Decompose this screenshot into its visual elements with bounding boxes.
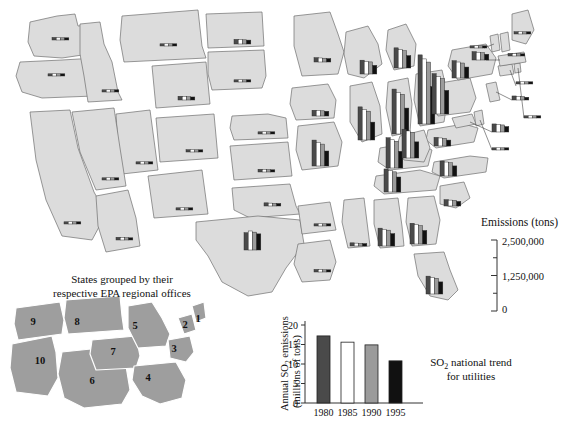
state-bars-wyoming xyxy=(178,96,195,100)
epa-region-shape-9 xyxy=(14,302,64,340)
trend-bar-1985 xyxy=(341,342,354,403)
state-bar-1990 xyxy=(242,80,246,82)
state-bar-1980 xyxy=(492,124,496,132)
state-bar-1990 xyxy=(410,132,414,158)
state-bar-1990 xyxy=(124,238,128,240)
state-bar-1985 xyxy=(120,238,124,240)
state-polygon-kansas xyxy=(230,142,292,180)
state-bar-1980 xyxy=(312,110,316,116)
state-bar-1985 xyxy=(456,62,460,78)
state-bars-minnesota xyxy=(314,58,331,62)
state-bar-1980 xyxy=(386,138,390,168)
state-bar-1985 xyxy=(398,50,402,68)
state-polygon-montana xyxy=(120,10,206,62)
state-bar-1980 xyxy=(116,237,120,240)
state-bar-1990 xyxy=(368,62,372,74)
state-polygon-mississippi xyxy=(342,198,370,248)
state-bar-1995 xyxy=(537,116,541,118)
state-bar-1995 xyxy=(327,59,331,62)
state-bar-1990 xyxy=(186,97,190,100)
state-bar-1985 xyxy=(516,96,520,100)
state-bar-1995 xyxy=(529,82,533,84)
state-polygon-new-hampshire xyxy=(500,32,510,52)
state-bar-1995 xyxy=(65,38,69,40)
state-bar-1995 xyxy=(397,177,401,192)
state-bar-1985 xyxy=(448,200,452,206)
state-bar-1985 xyxy=(382,229,386,246)
state-bar-1995 xyxy=(445,90,449,114)
trend-ylabel-line2: (millions of tons) xyxy=(291,335,302,408)
emissions-legend-axis xyxy=(491,240,497,311)
trend-xtick-label-1985: 1985 xyxy=(338,407,358,418)
state-bar-1980 xyxy=(514,32,518,34)
state-bar-1980 xyxy=(392,89,396,134)
state-bar-1985 xyxy=(140,162,144,164)
state-bars-nebraska xyxy=(258,132,275,134)
state-bar-1990 xyxy=(110,178,114,180)
state-bars-iowa xyxy=(312,110,329,116)
state-bar-1990 xyxy=(266,170,270,172)
state-bar-1995 xyxy=(373,65,377,74)
state-bar-1995 xyxy=(271,170,275,172)
state-bar-1985 xyxy=(182,97,186,100)
state-bar-1980 xyxy=(264,203,268,206)
epa-region-shape-10 xyxy=(10,336,58,396)
state-bar-1980 xyxy=(426,276,430,294)
state-polygon-colorado xyxy=(156,114,218,162)
state-bar-1980 xyxy=(350,243,354,246)
state-bar-1985 xyxy=(68,222,72,224)
state-bars-texas xyxy=(244,231,261,250)
state-bars-north-dakota xyxy=(234,39,251,44)
state-bar-1990 xyxy=(242,40,246,44)
state-bar-1995 xyxy=(521,54,525,56)
state-bar-1990 xyxy=(460,63,464,78)
state-bar-1980 xyxy=(440,161,444,176)
state-bar-1995 xyxy=(173,44,177,46)
trend-bar-1990 xyxy=(365,345,378,403)
state-polygon-vermont xyxy=(490,34,500,52)
state-bar-1990 xyxy=(366,111,370,140)
state-bars-new-jersey xyxy=(512,96,529,100)
state-polygon-nebraska xyxy=(230,114,288,140)
state-bar-1995 xyxy=(199,150,203,152)
epa-region-label-5: 5 xyxy=(132,320,137,331)
state-bars-connecticut xyxy=(516,82,533,84)
epa-region-label-9: 9 xyxy=(30,316,35,327)
leader-line-4 xyxy=(518,68,524,118)
state-bar-1985 xyxy=(444,162,448,176)
state-bar-1995 xyxy=(149,162,153,164)
state-bars-kansas xyxy=(258,169,275,172)
state-bar-1990 xyxy=(110,90,114,92)
state-bars-new-mexico xyxy=(176,208,193,210)
state-bar-1980 xyxy=(524,116,528,118)
state-bar-1985 xyxy=(528,116,532,118)
state-bar-1995 xyxy=(277,203,281,206)
state-bar-1985 xyxy=(518,32,522,34)
state-polygon-oklahoma xyxy=(232,184,300,218)
epa-region-label-6: 6 xyxy=(89,375,94,386)
state-bar-1980 xyxy=(410,223,414,244)
state-bar-1985 xyxy=(318,270,322,272)
state-bar-1995 xyxy=(505,148,509,150)
state-bar-1990 xyxy=(252,232,256,250)
state-bar-1985 xyxy=(436,77,440,114)
state-bar-1980 xyxy=(258,169,262,172)
state-bar-1995 xyxy=(391,234,395,246)
state-bar-1990 xyxy=(272,203,276,206)
state-polygon-delaware xyxy=(474,110,484,126)
state-bar-1990 xyxy=(418,226,422,244)
state-bar-1995 xyxy=(271,132,275,134)
state-polygon-new-jersey xyxy=(486,82,500,102)
state-bar-1980 xyxy=(64,222,68,224)
state-bar-1985 xyxy=(520,82,524,84)
figure-canvas: 12345678910 051015201980198519901995 Emi… xyxy=(0,0,587,431)
state-bar-1980 xyxy=(186,150,190,152)
state-bars-idaho xyxy=(102,90,119,92)
epa-region-inset-map: 12345678910 xyxy=(10,296,206,408)
state-bar-1985 xyxy=(318,224,322,226)
state-bars-maryland xyxy=(492,124,509,132)
state-bar-1995 xyxy=(129,238,133,240)
state-bars-arizona xyxy=(116,237,133,240)
state-bar-1980 xyxy=(234,39,238,44)
state-bar-1990 xyxy=(184,208,188,210)
